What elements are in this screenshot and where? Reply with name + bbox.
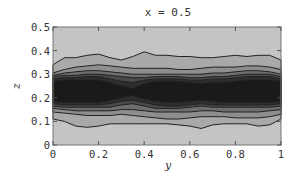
y-tick-label: 0.4 (31, 45, 50, 57)
x-tick-label: 0.6 (180, 148, 199, 160)
y-tick-label: 0.2 (31, 92, 50, 104)
y-axis-label: z (10, 83, 23, 90)
contour-band-6 (53, 80, 281, 102)
x-axis-label: y (164, 159, 172, 172)
x-tick-label: 1 (278, 148, 284, 160)
plot-area (53, 27, 281, 145)
contour-figure: x = 0.5 00.10.20.30.40.5 00.20.40.60.81 … (0, 0, 297, 187)
x-tick-label: 0 (50, 148, 56, 160)
y-tick-label: 0.3 (31, 68, 50, 80)
x-tick-label: 0.8 (226, 148, 245, 160)
contour-bands (53, 52, 281, 129)
x-tick-label: 0.2 (89, 148, 108, 160)
y-tick-label: 0.1 (31, 115, 50, 127)
chart-title: x = 0.5 (145, 6, 191, 19)
y-tick-label: 0.5 (31, 21, 50, 33)
x-tick-label: 0.4 (135, 148, 154, 160)
